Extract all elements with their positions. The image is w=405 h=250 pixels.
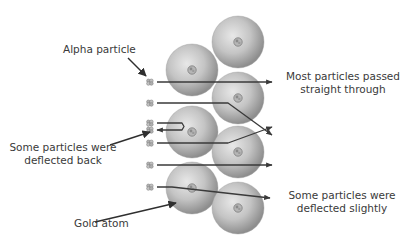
gold-atom [166, 162, 218, 214]
alpha-particles [147, 79, 154, 190]
alpha-particle-icon [147, 140, 154, 146]
gold-atom [212, 16, 264, 68]
gold-atom [212, 126, 264, 178]
gold-atom [166, 106, 218, 158]
alpha-particle-icon [147, 184, 154, 190]
passed-straight-label-line2: straight through [281, 83, 405, 96]
deflected-slightly-label: Some particles were deflected slightly [282, 189, 402, 215]
deflected-back-label: Some particles were deflected back [4, 141, 122, 167]
gold-atom [212, 72, 264, 124]
passed-straight-label-line1: Most particles passed [281, 70, 405, 83]
gold-atom [212, 182, 264, 234]
pointer-arrow-icon [128, 58, 146, 76]
deflected-back-label-line2: deflected back [4, 154, 122, 167]
alpha-particle-icon [147, 120, 154, 126]
nucleus-icon [188, 184, 196, 192]
passed-straight-label: Most particles passed straight through [281, 70, 405, 96]
alpha-particle-icon [147, 79, 154, 85]
gold-atom [166, 44, 218, 96]
alpha-particle-icon [147, 162, 154, 168]
alpha-particle-icon [147, 100, 154, 106]
gold-atom-label: Gold atom [74, 217, 129, 230]
nucleus-icon [234, 148, 242, 156]
nucleus-icon [234, 94, 242, 102]
alpha-particle-label: Alpha particle [63, 43, 136, 56]
deflected-slightly-label-line2: deflected slightly [282, 202, 402, 215]
gold-atoms [166, 16, 264, 234]
nucleus-icon [188, 66, 196, 74]
nucleus-icon [188, 128, 196, 136]
deflected-back-label-line1: Some particles were [4, 141, 122, 154]
nucleus-icon [234, 204, 242, 212]
deflected-slightly-label-line1: Some particles were [282, 189, 402, 202]
nucleus-icon [234, 38, 242, 46]
